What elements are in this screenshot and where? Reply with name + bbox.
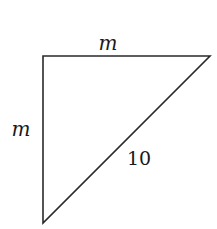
top-side-label: m [99, 31, 118, 55]
triangle-diagram: m m 10 [0, 0, 217, 229]
right-triangle [43, 56, 210, 223]
left-side-label: m [12, 117, 31, 141]
hypotenuse-label: 10 [127, 147, 151, 169]
